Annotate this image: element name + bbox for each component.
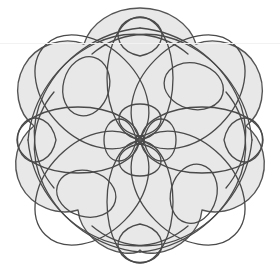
loop-motif-svg (0, 0, 280, 280)
artwork-canvas (0, 0, 280, 280)
